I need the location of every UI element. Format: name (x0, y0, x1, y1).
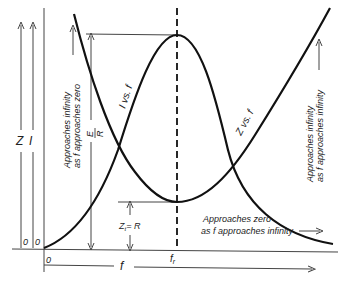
i-axis: I 0 (29, 25, 40, 248)
svg-text:as f approaches zero: as f approaches zero (72, 84, 82, 168)
left-asymptote-note: Approaches infinity as f approaches zero (62, 84, 82, 169)
i-origin-label: 0 (35, 237, 40, 247)
z-axis-label: Z (15, 134, 24, 148)
peak-level-line (86, 34, 177, 35)
zt-equals-r-label: Zt= R (118, 221, 141, 232)
svg-text:Approaches infinity: Approaches infinity (62, 91, 72, 169)
svg-text:E: E (85, 130, 95, 137)
z-curve-label: Z vs. f (233, 107, 257, 138)
f-axis: 0 f (44, 255, 312, 273)
baseline (12, 249, 338, 252)
f-origin-label: 0 (46, 255, 51, 265)
right-asymptote-note: Approaches infinity as f approaches infi… (305, 89, 325, 183)
svg-text:Approaches infinity: Approaches infinity (305, 105, 315, 183)
z-axis: Z 0 (15, 25, 28, 248)
resonance-frequency-label: fr (170, 253, 176, 265)
svg-text:as f approaches infinity: as f approaches infinity (315, 89, 325, 182)
f-axis-label: f (120, 259, 125, 273)
svg-text:R: R (95, 130, 105, 137)
z-origin-label: 0 (23, 237, 28, 247)
e-over-r-label: E R (85, 128, 105, 138)
i-axis-label: I (29, 134, 33, 148)
svg-text:Approaches zero: Approaches zero (202, 214, 271, 224)
resonance-diagram: Z 0 I 0 0 f fr E R Zt= R Z vs. f I vs. f… (0, 0, 349, 281)
z-curve (74, 8, 330, 202)
i-curve (44, 35, 333, 248)
svg-text:as f approaches infinity: as f approaches infinity (201, 226, 294, 236)
